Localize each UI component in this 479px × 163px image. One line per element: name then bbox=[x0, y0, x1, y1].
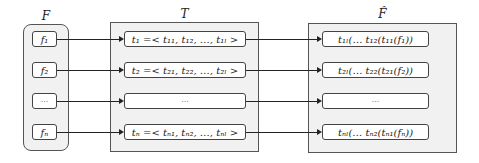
node-fhat-n: tₙₗ(… tₙ₂(tₙ₁(fₙ)) bbox=[322, 124, 429, 140]
node-f-ellipsis: ··· bbox=[32, 93, 57, 109]
arrowhead-icon bbox=[119, 98, 124, 104]
edge-fe-te bbox=[57, 101, 119, 102]
arrowhead-icon bbox=[317, 36, 322, 42]
node-tn: tₙ =< tₙ₁, tₙ₂, …, tₙₗ > bbox=[124, 124, 246, 140]
node-f1: f₁ bbox=[32, 31, 57, 47]
node-fn: fₙ bbox=[32, 124, 57, 140]
arrowhead-icon bbox=[119, 36, 124, 42]
node-fhat-2: t₂ₗ(… t₂₂(t₂₁(f₂)) bbox=[322, 62, 429, 78]
node-t1: t₁ =< t₁₁, t₁₂, …, t₁ₗ > bbox=[124, 31, 246, 47]
node-t-ellipsis: ··· bbox=[124, 93, 246, 109]
node-f2: f₂ bbox=[32, 62, 57, 78]
label-F-hat: F̂ bbox=[308, 7, 457, 21]
arrowhead-icon bbox=[317, 67, 322, 73]
edge-f1-t1 bbox=[57, 39, 119, 40]
edge-t2-fhat2 bbox=[246, 70, 317, 71]
edge-t1-fhat1 bbox=[246, 39, 317, 40]
arrowhead-icon bbox=[317, 98, 322, 104]
edge-fn-tn bbox=[57, 132, 119, 133]
node-t2: t₂ =< t₂₁, t₂₂, …, t₂ₗ > bbox=[124, 62, 246, 78]
label-T: T bbox=[110, 7, 259, 21]
node-fhat-1: t₁ₗ(… t₁₂(t₁₁(f₁)) bbox=[322, 31, 429, 47]
arrowhead-icon bbox=[317, 129, 322, 135]
node-fhat-ellipsis: ··· bbox=[322, 93, 429, 109]
label-F: F bbox=[23, 9, 69, 23]
arrowhead-icon bbox=[119, 129, 124, 135]
edge-te-fhate bbox=[246, 101, 317, 102]
arrowhead-icon bbox=[119, 67, 124, 73]
edge-tn-fhatn bbox=[246, 132, 317, 133]
edge-f2-t2 bbox=[57, 70, 119, 71]
